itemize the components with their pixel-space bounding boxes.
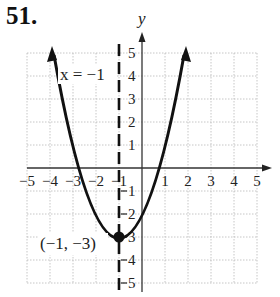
svg-text:5: 5: [128, 45, 136, 61]
svg-text:4: 4: [230, 173, 238, 189]
x-axis: [27, 165, 272, 172]
vertex-point: [114, 232, 125, 243]
svg-text:3: 3: [207, 173, 215, 189]
svg-text:5: 5: [253, 173, 261, 189]
svg-text:4: 4: [128, 252, 136, 268]
svg-text:1: 1: [128, 137, 136, 153]
svg-text:2: 2: [184, 173, 192, 189]
axis-of-symmetry-label: x = −1: [60, 65, 105, 84]
x-tick-labels: −5 −4 −3 −2 −1 1 2 3 4 5: [19, 173, 261, 189]
arrow-right-icon: [181, 46, 191, 62]
svg-text:−3: −3: [65, 173, 81, 189]
svg-text:−5: −5: [19, 173, 35, 189]
svg-text:3: 3: [128, 91, 136, 107]
svg-text:2: 2: [128, 114, 136, 130]
svg-text:5: 5: [128, 275, 136, 291]
svg-text:4: 4: [128, 68, 136, 84]
svg-text:1: 1: [128, 183, 136, 199]
svg-text:−2: −2: [88, 173, 104, 189]
arrow-left-icon: [47, 46, 57, 62]
graph: y −5 −4 −3 −2 −1 1 2 3 4 5 5 4 3 2 1 1 2…: [0, 0, 280, 297]
svg-text:−4: −4: [42, 173, 58, 189]
y-axis-label: y: [136, 9, 146, 28]
vertex-label: (−1, −3): [40, 234, 96, 253]
y-axis: [139, 32, 146, 292]
svg-text:1: 1: [161, 173, 169, 189]
svg-text:2: 2: [128, 206, 136, 222]
